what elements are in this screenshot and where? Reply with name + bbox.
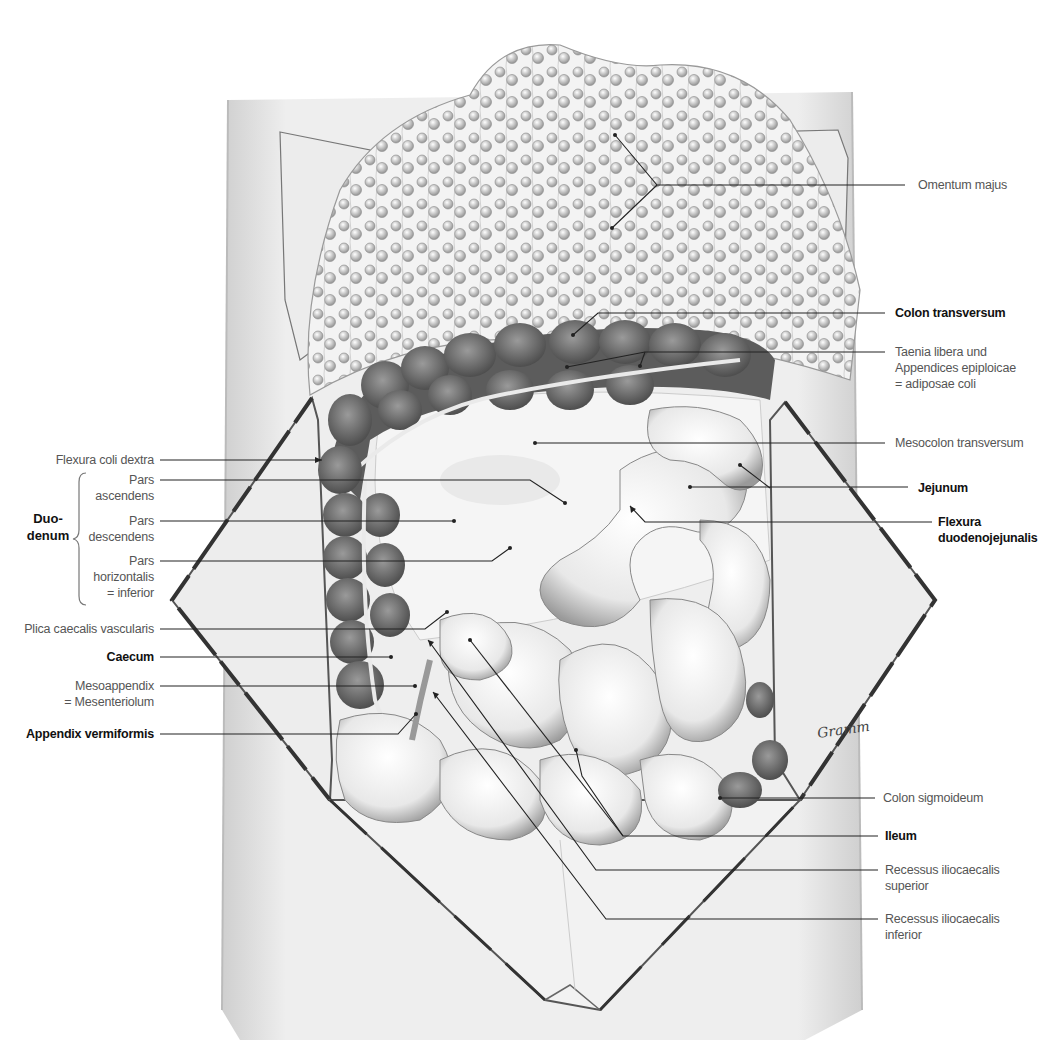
label-plica-caecalis-vascularis: Plica caecalis vascularis [24,621,154,637]
label-pars-hor-line3: = inferior [93,585,154,601]
label-colon-sigmoideum: Colon sigmoideum [883,790,983,806]
duodenum-brace-icon [72,472,88,606]
label-recessus-superior: Recessus iliocaecalis superior [885,862,1000,894]
label-ileum: Ileum [885,828,917,844]
label-mesocolon-transversum: Mesocolon transversum [895,435,1024,451]
abdomen-illustration: Gramm [0,0,1064,1062]
label-taenia-line3: = adiposae coli [895,376,1016,392]
label-duodenum-line1: Duo- [33,511,63,526]
anatomy-figure: Gramm [0,0,1064,1062]
label-recessus-inferior: Recessus iliocaecalis inferior [885,911,1000,943]
label-taenia-line2: Appendices epiploicae [895,360,1016,376]
label-pars-hor-line2: horizontalis [93,569,154,585]
label-recessus-inf-line2: inferior [885,927,1000,943]
label-flexura-duodenojejunalis: Flexura duodenojejunalis [938,514,1038,546]
label-omentum-majus: Omentum majus [918,177,1007,193]
label-flexura-dj-line1: Flexura [938,514,1038,530]
label-recessus-sup-line2: superior [885,878,1000,894]
label-flexura-coli-dextra: Flexura coli dextra [56,452,154,468]
label-pars-asc-line2: ascendens [95,488,154,504]
label-duodenum-group: Duo- denum [22,510,74,544]
label-pars-desc-line1: Pars [89,513,154,529]
label-recessus-inf-line1: Recessus iliocaecalis [885,911,1000,927]
label-mesoappendix-line2: = Mesenteriolum [64,694,154,710]
label-flexura-dj-line2: duodenojejunalis [938,530,1038,546]
label-colon-transversum: Colon transversum [895,305,1006,321]
label-appendix-vermiformis: Appendix vermiformis [26,726,154,742]
label-recessus-sup-line1: Recessus iliocaecalis [885,862,1000,878]
label-pars-descendens: Pars descendens [89,513,154,545]
label-jejunum: Jejunum [918,480,968,496]
label-mesoappendix-line1: Mesoappendix [64,678,154,694]
label-pars-horizontalis: Pars horizontalis = inferior [93,553,154,601]
label-pars-desc-line2: descendens [89,529,154,545]
label-caecum: Caecum [107,649,154,665]
label-taenia-line1: Taenia libera und [895,344,1016,360]
label-mesoappendix: Mesoappendix = Mesenteriolum [64,678,154,710]
label-taenia-libera: Taenia libera und Appendices epiploicae … [895,344,1016,392]
label-pars-asc-line1: Pars [95,472,154,488]
label-pars-hor-line1: Pars [93,553,154,569]
label-pars-ascendens: Pars ascendens [95,472,154,504]
label-duodenum-line2: denum [27,528,70,543]
